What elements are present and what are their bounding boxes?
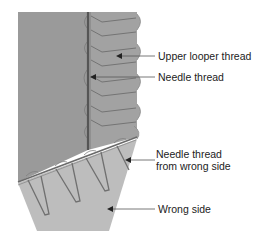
label-needle-thread-wrong-side-line1: Needle thread [156, 148, 222, 160]
label-wrong-side: Wrong side [158, 203, 211, 215]
fabric-right-side [18, 12, 88, 182]
label-needle-thread: Needle thread [158, 71, 224, 83]
label-upper-looper-thread: Upper looper thread [158, 50, 251, 62]
overlock-stitch-diagram [0, 0, 260, 237]
label-needle-thread-wrong-side-line2: from wrong side [156, 160, 231, 172]
